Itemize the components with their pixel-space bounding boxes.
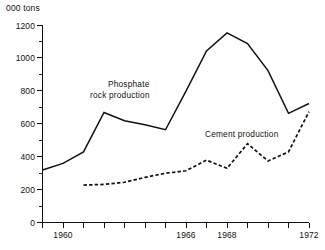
- annotation-phosphate-line2: rock production: [90, 90, 150, 100]
- annotation-cement: Cement production: [205, 129, 279, 139]
- annotation-phosphate-line1: Phosphate: [108, 79, 150, 89]
- x-axis-tick-labels: 1960 1966 1968 1972: [53, 230, 318, 240]
- y-tick-label-1000: 1000: [16, 53, 35, 63]
- x-tick-label-1972: 1972: [299, 230, 318, 240]
- x-tick-label-1960: 1960: [53, 230, 72, 240]
- series-phosphate-rock-production: [43, 33, 310, 170]
- x-tick-label-1966: 1966: [176, 230, 195, 240]
- chart-container: 000 tons 0 200 400 600: [0, 0, 325, 250]
- x-tick-label-1968: 1968: [217, 230, 236, 240]
- y-tick-label-800: 800: [21, 86, 36, 96]
- y-tick-label-1200: 1200: [16, 21, 35, 31]
- y-axis-tick-labels: 0 200 400 600 800 1000 1200: [16, 21, 35, 228]
- y-tick-label-600: 600: [21, 119, 36, 129]
- y-tick-label-400: 400: [21, 152, 36, 162]
- y-tick-label-200: 200: [21, 185, 36, 195]
- line-chart-plot: 0 200 400 600 800 1000 1200: [0, 0, 325, 250]
- y-axis-ticks: [37, 26, 43, 223]
- y-tick-label-0: 0: [30, 218, 35, 228]
- x-axis-ticks: [43, 223, 310, 229]
- series-cement-production: [84, 112, 310, 185]
